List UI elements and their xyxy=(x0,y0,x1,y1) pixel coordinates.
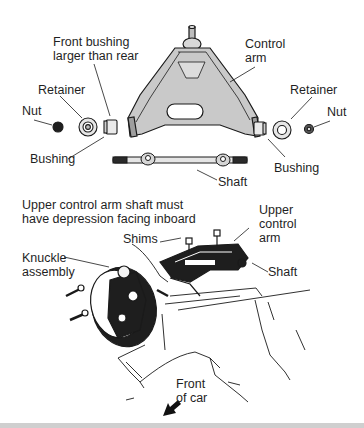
bushing-right-label: Bushing xyxy=(274,161,319,175)
front-bushing-note: Front bushing larger than rear xyxy=(53,35,138,63)
control-arm-illustration xyxy=(128,26,260,138)
suspension-diagram: Front bushing larger than rear Control a… xyxy=(0,0,364,428)
left-hardware-illustration xyxy=(53,118,117,136)
shaft-illustration xyxy=(113,153,247,166)
right-hardware-illustration xyxy=(254,121,314,139)
shaft-top-label: Shaft xyxy=(218,175,247,189)
retainer-left-label: Retainer xyxy=(38,83,85,97)
front-of-car-label: Front of car xyxy=(176,377,207,405)
shims-label: Shims xyxy=(123,232,158,246)
nut-right-label: Nut xyxy=(327,105,346,119)
instruction-note: Upper control arm shaft must have depres… xyxy=(22,198,196,226)
control-arm-label: Control arm xyxy=(245,37,285,65)
bushing-left-label: Bushing xyxy=(30,152,75,166)
nut-left-label: Nut xyxy=(22,104,41,118)
knuckle-assembly-illustration xyxy=(66,261,164,353)
bottom-border-strip xyxy=(0,423,364,428)
upper-control-arm-label: Upper control arm xyxy=(259,203,297,245)
retainer-right-label: Retainer xyxy=(290,83,337,97)
shaft-bottom-label: Shaft xyxy=(268,265,297,279)
knuckle-assembly-label: Knuckle assembly xyxy=(22,251,75,279)
